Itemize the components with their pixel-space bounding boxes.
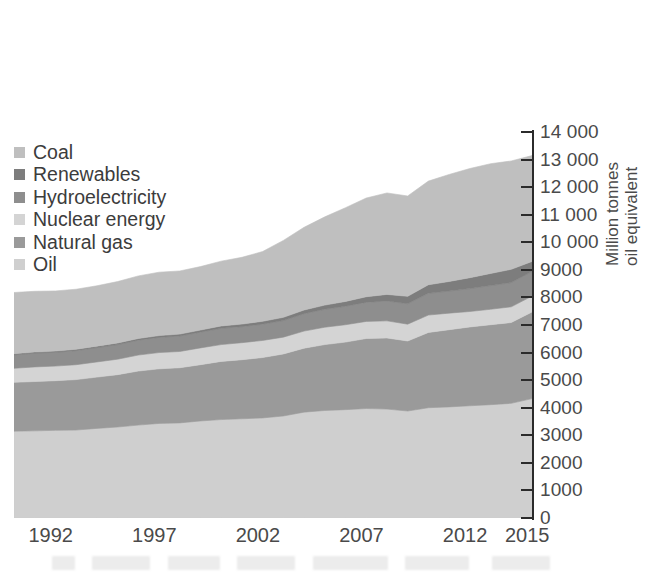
y-tick-0: [521, 517, 533, 519]
legend-item-coal: Coal: [14, 141, 166, 164]
y-tick-11000: [521, 214, 533, 216]
y-tick-9000: [521, 269, 533, 271]
legend-label-nuclear-energy: Nuclear energy: [33, 210, 165, 230]
y-tick-7000: [521, 324, 533, 326]
y-tick-label-10000: 10 000: [540, 232, 599, 251]
legend-label-renewables: Renewables: [33, 165, 140, 185]
legend-swatch-renewables: [14, 169, 25, 180]
y-tick-5000: [521, 379, 533, 381]
y-tick-8000: [521, 296, 533, 298]
legend-label-natural-gas: Natural gas: [33, 233, 133, 253]
x-tick-label-2015: 2015: [505, 524, 550, 547]
x-tick-label-1997: 1997: [132, 524, 177, 547]
legend-swatch-natural-gas: [14, 237, 25, 248]
y-tick-label-4000: 4000: [540, 398, 583, 417]
x-tick-label-1992: 1992: [28, 524, 73, 547]
y-tick-3000: [521, 434, 533, 436]
y-tick-1000: [521, 489, 533, 491]
y-tick-label-1000: 1000: [540, 480, 583, 499]
y-tick-label-11000: 11 000: [540, 205, 597, 224]
x-tick-label-2012: 2012: [443, 524, 488, 547]
y-tick-label-7000: 7000: [540, 315, 583, 334]
legend-swatch-hydroelectricity: [14, 192, 25, 203]
legend-label-oil: Oil: [33, 255, 57, 275]
y-tick-label-12000: 12 000: [540, 177, 599, 196]
legend-item-natural-gas: Natural gas: [14, 231, 166, 254]
y-tick-label-6000: 6000: [540, 343, 583, 362]
y-tick-6000: [521, 352, 533, 354]
legend-swatch-coal: [14, 147, 25, 158]
y-tick-14000: [521, 131, 533, 133]
legend: Coal Renewables Hydroelectricity Nuclear…: [14, 141, 166, 276]
x-tick-label-2002: 2002: [236, 524, 281, 547]
y-tick-2000: [521, 462, 533, 464]
y-tick-label-2000: 2000: [540, 453, 583, 472]
y-axis-title: Million tonnes oil equivalent: [603, 66, 641, 266]
y-tick-label-13000: 13 000: [540, 150, 599, 169]
y-tick-label-8000: 8000: [540, 287, 583, 306]
y-tick-12000: [521, 186, 533, 188]
legend-swatch-nuclear-energy: [14, 214, 25, 225]
legend-label-hydroelectricity: Hydroelectricity: [33, 188, 166, 208]
y-tick-label-3000: 3000: [540, 425, 583, 444]
legend-item-nuclear-energy: Nuclear energy: [14, 209, 166, 232]
y-tick-label-9000: 9000: [540, 260, 583, 279]
y-tick-label-5000: 5000: [540, 370, 583, 389]
legend-swatch-oil: [14, 259, 25, 270]
x-tick-label-2007: 2007: [339, 524, 384, 547]
y-tick-13000: [521, 159, 533, 161]
legend-item-renewables: Renewables: [14, 164, 166, 187]
stacked-area-chart: 14 00013 00012 00011 00010 0009000800070…: [0, 0, 662, 572]
y-tick-10000: [521, 241, 533, 243]
y-tick-label-14000: 14 000: [540, 122, 599, 141]
legend-label-coal: Coal: [33, 143, 73, 163]
legend-item-oil: Oil: [14, 254, 166, 277]
y-tick-4000: [521, 407, 533, 409]
page-caption-cropped: [40, 556, 620, 570]
legend-item-hydroelectricity: Hydroelectricity: [14, 186, 166, 209]
